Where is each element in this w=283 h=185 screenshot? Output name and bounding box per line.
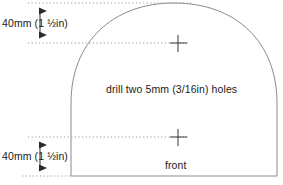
front-face-label: front — [165, 159, 187, 171]
technical-drawing-canvas: 40mm (1 ½in) 40mm (1 ½in) drill two 5mm … — [0, 0, 283, 185]
hole-crosshair-bottom — [170, 129, 187, 146]
dimension-label-top: 40mm (1 ½in) — [2, 17, 68, 29]
drill-instruction-label: drill two 5mm (3/16in) holes — [106, 83, 237, 95]
hole-crosshair-top — [170, 35, 187, 52]
dimension-label-bottom: 40mm (1 ½in) — [2, 150, 68, 162]
